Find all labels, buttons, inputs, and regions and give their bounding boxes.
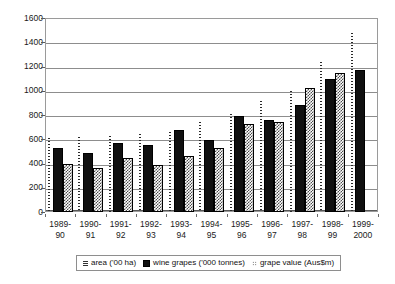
- x-label-line1: 1996-: [261, 219, 283, 229]
- x-axis-tick-mark: [75, 214, 76, 217]
- x-axis-category-label: 1993-94: [166, 219, 196, 241]
- x-label-line1: 1999-: [352, 219, 374, 229]
- x-label-line1: 1997-: [291, 219, 313, 229]
- bar-group: [227, 18, 257, 212]
- legend-label: grape value (Aus$m): [260, 259, 334, 267]
- area-marker-line: [109, 136, 111, 212]
- x-axis-category-label: 1999-2000: [348, 219, 378, 241]
- legend-item: wine grapes ('000 tonnes): [143, 259, 245, 267]
- bar-grape-value: [184, 156, 194, 212]
- dot-pattern-icon: [252, 261, 257, 266]
- bar-group: [136, 18, 166, 212]
- x-label-line1: 1989-: [49, 219, 71, 229]
- x-axis-tick-mark: [348, 214, 349, 217]
- bar-group: [348, 18, 378, 212]
- y-axis-tick-label: 200: [1, 183, 43, 192]
- x-axis-labels: 1989-901990-911991-921992-931993-941994-…: [45, 214, 378, 250]
- bar-wine-grapes: [325, 79, 335, 212]
- x-axis-tick-mark: [317, 214, 318, 217]
- bar-wine-grapes: [53, 148, 63, 212]
- x-axis-category-label: 1989-90: [45, 219, 75, 241]
- x-label-line2: 97: [257, 230, 287, 241]
- bar-wine-grapes: [113, 143, 123, 212]
- x-label-line2: 96: [227, 230, 257, 241]
- y-axis-tick-label: 1400: [1, 38, 43, 47]
- x-label-line2: 93: [136, 230, 166, 241]
- bar-wine-grapes: [174, 130, 184, 212]
- bar-wine-grapes: [295, 105, 305, 212]
- legend-item: grape value (Aus$m): [252, 259, 334, 267]
- bar-grape-value: [63, 164, 73, 213]
- bar-group: [106, 18, 136, 212]
- legend-label: area ('00 ha): [91, 259, 136, 267]
- bar-groups: [45, 18, 378, 212]
- x-axis-tick-mark: [257, 214, 258, 217]
- x-label-line2: 98: [287, 230, 317, 241]
- x-axis-tick-mark: [106, 214, 107, 217]
- x-label-line2: 2000: [348, 230, 378, 241]
- bar-grape-value: [123, 158, 133, 212]
- x-axis-category-label: 1990-91: [75, 219, 105, 241]
- area-marker-line: [320, 62, 322, 212]
- x-label-line2: 99: [317, 230, 347, 241]
- area-marker-line: [78, 137, 80, 212]
- y-axis-tick-label: 0: [1, 208, 43, 217]
- dotted-line-icon: [83, 261, 88, 266]
- x-axis-category-label: 1991-92: [106, 219, 136, 241]
- x-label-line2: 92: [106, 230, 136, 241]
- x-label-line1: 1992-: [140, 219, 162, 229]
- legend-label: wine grapes ('000 tonnes): [153, 259, 245, 267]
- y-axis-tick-label: 600: [1, 135, 43, 144]
- bar-group: [166, 18, 196, 212]
- area-marker-line: [169, 132, 171, 212]
- x-axis-category-label: 1998-99: [317, 219, 347, 241]
- y-axis-tick-label: 1200: [1, 62, 43, 71]
- bar-wine-grapes: [234, 116, 244, 212]
- bar-wine-grapes: [264, 120, 274, 212]
- x-axis-category-label: 1994-95: [196, 219, 226, 241]
- x-label-line1: 1991-: [110, 219, 132, 229]
- x-label-line1: 1994-: [201, 219, 223, 229]
- x-axis-category-label: 1996-97: [257, 219, 287, 241]
- x-label-line1: 1990-: [80, 219, 102, 229]
- bar-grape-value: [153, 165, 163, 212]
- x-axis-tick-mark: [287, 214, 288, 217]
- bar-grape-value: [335, 73, 345, 212]
- chart-legend: area ('00 ha)wine grapes ('000 tonnes)gr…: [76, 255, 341, 271]
- x-label-line2: 95: [196, 230, 226, 241]
- x-axis-tick-mark: [227, 214, 228, 217]
- bar-group: [317, 18, 347, 212]
- y-axis-tick-label: 1000: [1, 86, 43, 95]
- filled-square-icon: [143, 260, 150, 267]
- bar-group: [257, 18, 287, 212]
- area-marker-line: [260, 101, 262, 212]
- legend-item: area ('00 ha): [83, 259, 136, 267]
- area-marker-line: [230, 114, 232, 212]
- bar-grape-value: [274, 122, 284, 212]
- x-axis-tick-mark: [136, 214, 137, 217]
- bar-grape-value: [244, 124, 254, 212]
- bar-chart: 02004006008001000120014001600 1989-90199…: [0, 0, 395, 284]
- y-axis-tick-label: 1600: [1, 14, 43, 23]
- bar-wine-grapes: [83, 153, 93, 212]
- bar-wine-grapes: [204, 140, 214, 212]
- area-marker-line: [139, 134, 141, 212]
- bar-group: [45, 18, 75, 212]
- area-marker-line: [290, 91, 292, 212]
- bar-wine-grapes: [355, 70, 365, 212]
- y-axis-tick-mark: [41, 212, 45, 213]
- y-axis-tick-label: 800: [1, 111, 43, 120]
- x-label-line1: 1995-: [231, 219, 253, 229]
- x-label-line1: 1993-: [170, 219, 192, 229]
- bar-grape-value: [93, 168, 103, 212]
- bar-grape-value: [305, 88, 315, 212]
- area-marker-line: [351, 33, 353, 212]
- x-label-line2: 90: [45, 230, 75, 241]
- bar-wine-grapes: [143, 145, 153, 212]
- bar-grape-value: [214, 148, 224, 212]
- y-axis-tick-label: 400: [1, 159, 43, 168]
- x-axis-tick-mark: [166, 214, 167, 217]
- x-axis-category-label: 1997-98: [287, 219, 317, 241]
- x-axis-category-label: 1992-93: [136, 219, 166, 241]
- x-label-line1: 1998-: [322, 219, 344, 229]
